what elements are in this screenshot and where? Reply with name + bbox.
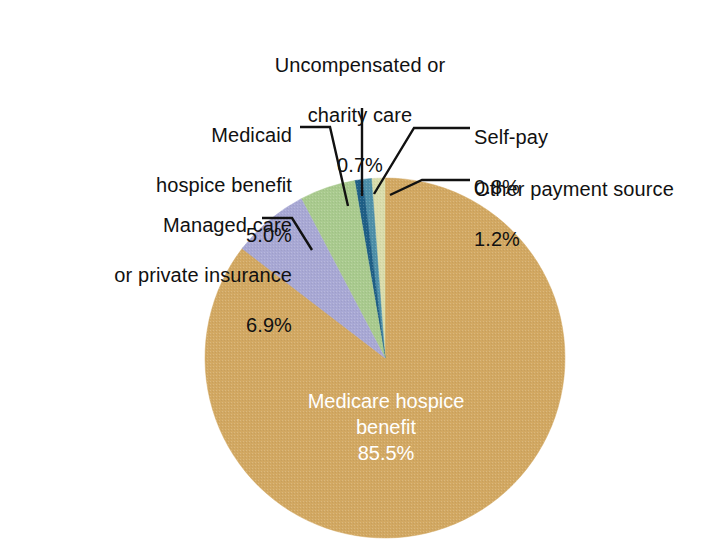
label-other-payment-source-line1: Other payment source (474, 177, 720, 202)
label-managed-line1: Managed care (10, 213, 292, 238)
label-other-payment-source: Other payment source 1.2% (474, 152, 720, 277)
label-medicaid-line1: Medicaid (56, 123, 292, 148)
label-medicare-line1: Medicare hospice (268, 388, 504, 414)
label-managed-care-or-private-insurance: Managed care or private insurance 6.9% (10, 188, 292, 363)
label-managed-percent: 6.9% (10, 313, 292, 338)
pie-chart-figure: Uncompensated or charity care 0.7% Medic… (0, 0, 722, 559)
label-medicare-percent: 85.5% (358, 442, 415, 464)
label-medicare-line2: benefit (268, 414, 504, 440)
label-other-payment-source-percent: 1.2% (474, 227, 720, 252)
label-uncompensated-line1: Uncompensated or (238, 53, 482, 78)
label-managed-line2: or private insurance (10, 263, 292, 288)
label-self-pay-line1: Self-pay (474, 125, 714, 150)
label-medicare-hospice-benefit: Medicare hospice benefit 85.5% (268, 388, 504, 466)
